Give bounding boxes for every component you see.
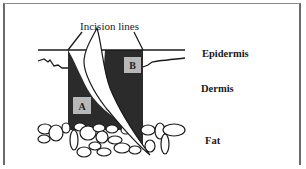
skin-incision-diagram: A B Incision lines Epidermis Dermis Fat <box>0 0 306 169</box>
fat-cells <box>38 123 185 157</box>
label-epidermis: Epidermis <box>202 48 249 59</box>
incision-line-left <box>68 32 82 50</box>
incision-line-right <box>134 32 143 50</box>
label-dermis: Dermis <box>201 83 234 94</box>
region-b-label: B <box>129 60 136 71</box>
diagram-title: Incision lines <box>80 20 139 32</box>
region-a-label: A <box>78 101 86 112</box>
dermis-wave-left <box>38 59 68 68</box>
dermis-wave-right <box>143 58 185 67</box>
label-fat: Fat <box>205 135 221 146</box>
